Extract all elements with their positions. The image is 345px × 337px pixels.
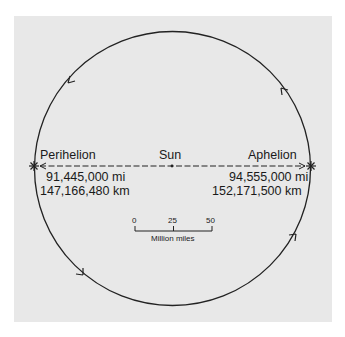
sun-label: Sun (159, 148, 181, 162)
scale-bar (135, 226, 212, 231)
perihelion-label: Perihelion (40, 148, 96, 162)
orbit-diagram (0, 0, 345, 337)
aphelion-km: 152,171,500 km (212, 184, 302, 198)
scale-tick-25: 25 (168, 216, 177, 225)
orbit-ellipse (35, 32, 311, 306)
scale-tick-50: 50 (206, 216, 215, 225)
earth-perihelion-marker-icon (29, 161, 39, 171)
sun-dot-icon (171, 165, 174, 168)
scale-unit-label: Million miles (151, 234, 195, 243)
aphelion-miles: 94,555,000 mi (229, 170, 308, 184)
aphelion-label: Aphelion (248, 148, 297, 162)
perihelion-km: 147,166,480 km (40, 184, 130, 198)
perihelion-miles: 91,445,000 mi (46, 170, 125, 184)
scale-tick-0: 0 (132, 216, 136, 225)
